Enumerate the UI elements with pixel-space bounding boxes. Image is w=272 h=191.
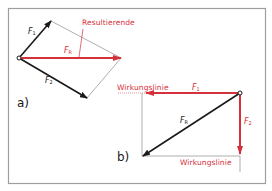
force-subscript: R: [69, 49, 72, 55]
part-b-label: b): [117, 151, 129, 163]
force-f1-arrow: [19, 21, 51, 58]
part-a-label: a): [17, 97, 29, 109]
force-f2-label: F2: [45, 77, 53, 85]
force-subscript: 1: [197, 86, 200, 92]
force-subscript: 1: [33, 30, 36, 36]
line-of-action-top-label: Wirkungslinie: [117, 84, 169, 92]
resultant-force-label: FR: [64, 47, 72, 55]
resultant-force-label-b: FR: [180, 117, 188, 125]
force-f2-label-b: F2: [244, 118, 252, 126]
construction-line: [87, 58, 121, 98]
force-f2-arrow: [19, 58, 87, 98]
force-subscript: 2: [249, 120, 252, 126]
force-subscript: R: [185, 119, 188, 125]
force-f1-label: F1: [28, 28, 36, 36]
force-f1-label-b: F1: [192, 84, 200, 92]
origin-point-b: [238, 91, 242, 95]
origin-point: [17, 56, 21, 60]
force-subscript: 2: [50, 79, 53, 85]
resultant-annotation: Resultierende: [82, 19, 135, 27]
force-parallelogram-diagram: Resultierende F1 F2 FR a) Wirkungslinie …: [0, 0, 272, 191]
resultant-force-arrow-b: [143, 93, 240, 156]
annotation-leader-line: [79, 29, 83, 57]
line-of-action-bottom-label: Wirkungslinie: [180, 159, 232, 167]
